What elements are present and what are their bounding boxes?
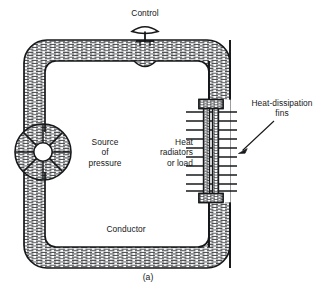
label-conductor: Conductor	[86, 224, 166, 234]
figure-caption: (a)	[128, 272, 168, 282]
label-heat-dissipation-fins: Heat-dissipation fins	[243, 98, 321, 119]
label-heat-radiators-or-load: Heat radiators or load	[131, 137, 193, 168]
figure-hydraulic-analogy: Control Source of pressure Heat radiator…	[0, 0, 323, 289]
pressure-source-pump	[15, 124, 72, 180]
label-control: Control	[113, 8, 177, 18]
label-source-of-pressure: Source of pressure	[74, 137, 136, 168]
